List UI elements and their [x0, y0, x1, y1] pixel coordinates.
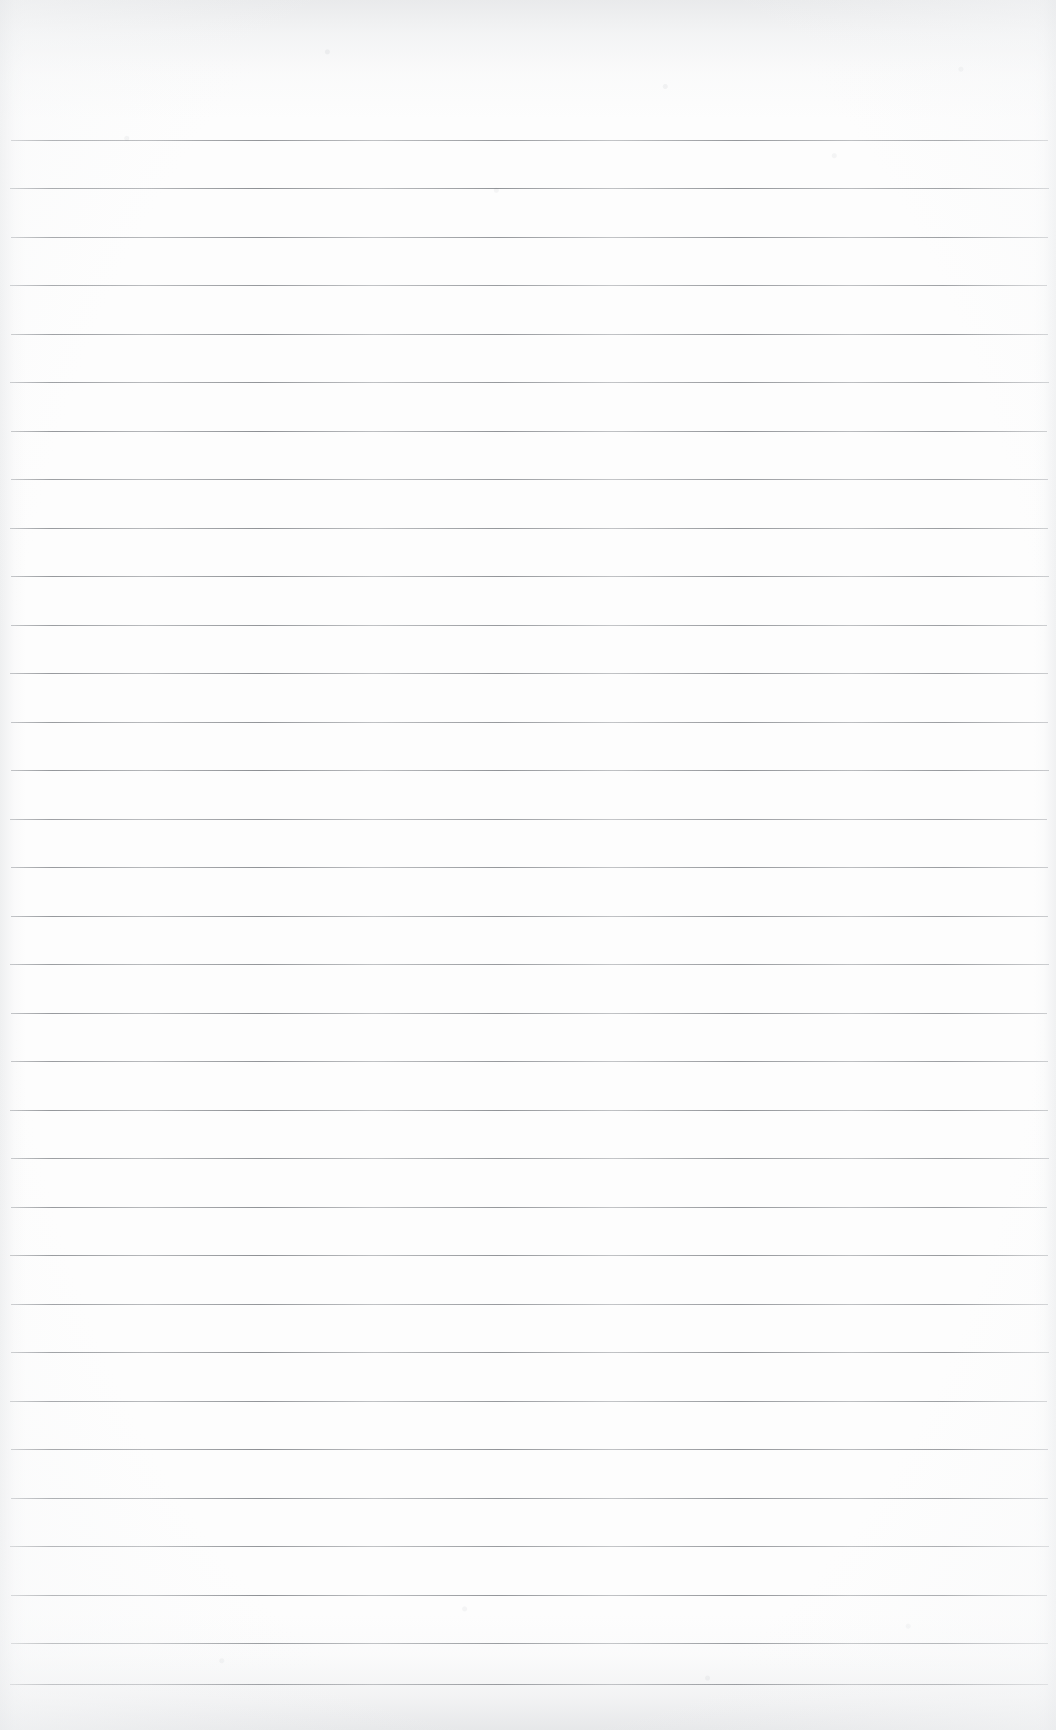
writing-area[interactable] — [11, 140, 1048, 1685]
scanned-page — [0, 0, 1056, 1730]
